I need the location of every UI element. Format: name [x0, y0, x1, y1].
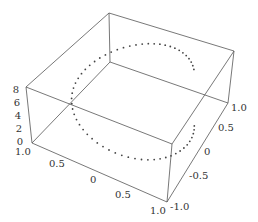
z-tick: 4 — [15, 110, 21, 121]
data-point — [91, 138, 93, 140]
x-axis: 1.0 0.5 0 0.5 1.0 — [15, 146, 166, 216]
data-point — [193, 125, 195, 127]
y-axis: 1.0 0.5 0 -0.5 -1.0 — [170, 102, 247, 212]
data-point — [114, 152, 116, 154]
data-point — [89, 64, 91, 66]
x-tick: 0 — [90, 174, 96, 185]
data-point — [86, 133, 88, 135]
data-point — [71, 103, 73, 105]
3d-scatter-plot: 8 6 4 2 0 1.0 0.5 0 0.5 1.0 1.0 0.5 0 -0… — [0, 0, 258, 222]
x-tick: 0.5 — [49, 158, 65, 169]
data-point — [77, 77, 79, 79]
data-point — [127, 156, 129, 158]
data-point — [189, 140, 191, 142]
y-tick: 0.5 — [218, 122, 234, 133]
data-point — [102, 146, 104, 148]
data-point — [108, 149, 110, 151]
y-tick: 1.0 — [231, 102, 247, 113]
data-point — [73, 87, 75, 89]
y-tick: -0.5 — [189, 170, 208, 181]
data-point — [170, 155, 172, 157]
x-tick: 0.5 — [115, 189, 131, 200]
z-tick: 2 — [16, 123, 22, 134]
data-point — [192, 133, 194, 135]
data-point — [84, 69, 86, 71]
z-tick: 6 — [14, 97, 20, 108]
data-point — [179, 150, 181, 152]
data-point — [135, 44, 137, 46]
data-point — [192, 65, 194, 67]
data-point — [183, 147, 185, 149]
data-point — [147, 43, 149, 45]
data-point — [169, 46, 171, 48]
data-point — [79, 124, 81, 126]
data-point — [188, 58, 190, 60]
data-point — [165, 157, 167, 159]
data-point — [186, 144, 188, 146]
data-point — [76, 119, 78, 121]
data-point — [71, 98, 73, 100]
data-point — [174, 47, 176, 49]
data-point — [134, 158, 136, 160]
z-axis: 8 6 4 2 0 — [13, 84, 23, 147]
data-point — [190, 61, 192, 63]
data-points — [71, 43, 196, 161]
data-point — [81, 73, 83, 75]
data-point — [129, 45, 131, 47]
data-point — [72, 108, 74, 110]
data-point — [191, 137, 193, 139]
data-point — [159, 158, 161, 160]
data-point — [71, 92, 73, 94]
data-point — [110, 51, 112, 53]
data-point — [141, 43, 143, 45]
data-point — [164, 44, 166, 46]
data-point — [147, 159, 149, 161]
data-point — [121, 154, 123, 156]
data-point — [75, 82, 77, 84]
data-point — [82, 129, 84, 131]
y-tick: 0 — [204, 146, 210, 157]
data-point — [123, 47, 125, 49]
data-point — [99, 57, 101, 59]
x-tick: 1.0 — [15, 146, 31, 157]
data-point — [159, 43, 161, 45]
y-tick: -1.0 — [170, 201, 189, 212]
data-point — [153, 159, 155, 161]
data-point — [178, 49, 180, 51]
x-tick: 1.0 — [150, 205, 166, 216]
z-tick: 8 — [13, 84, 19, 95]
data-point — [182, 52, 184, 54]
data-point — [105, 54, 107, 56]
data-point — [116, 49, 118, 51]
data-point — [94, 61, 96, 63]
data-point — [141, 159, 143, 161]
data-point — [153, 43, 155, 45]
data-point — [73, 113, 75, 115]
data-point — [193, 129, 195, 131]
data-point — [175, 153, 177, 155]
data-point — [96, 142, 98, 144]
data-point — [185, 55, 187, 57]
data-point — [193, 69, 195, 71]
